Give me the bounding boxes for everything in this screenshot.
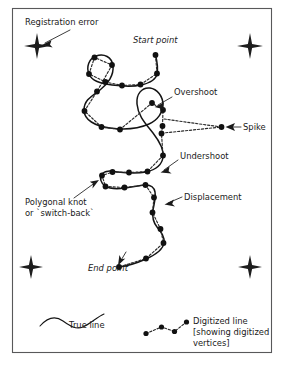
legend-digitized-vertex: [143, 331, 148, 336]
digitized-vertex: [161, 240, 167, 246]
legend-digitized-vertex: [159, 324, 164, 329]
legend-digitized-vertex: [184, 319, 189, 324]
start-point-label: Start point: [133, 35, 178, 45]
overshoot-label: Overshoot: [174, 87, 218, 97]
digitized-vertex: [160, 153, 166, 159]
digitized-vertex: [82, 108, 88, 114]
digitized-vertex: [119, 83, 125, 89]
digitized-vertex: [143, 256, 149, 262]
digitized-vertex: [117, 127, 123, 133]
legend-digitized-line-label-line1: Digitized line: [193, 316, 248, 326]
digitized-vertex: [92, 55, 98, 61]
polygonal-knot-label-line2: or `switch-back`: [25, 208, 94, 218]
digitized-vertex: [149, 100, 155, 106]
digitized-vertex: [86, 71, 92, 77]
digitized-vertex: [159, 131, 165, 137]
undershoot-label: Undershoot: [180, 151, 229, 161]
legend-digitized-line-label-line3: vertices]: [193, 338, 230, 348]
digitized-vertex: [143, 182, 149, 188]
digitized-vertex: [145, 169, 151, 175]
digitized-vertex: [153, 52, 159, 58]
displacement-label: Displacement: [184, 192, 242, 202]
legend-digitized-line-label-line2: [showing digitized: [193, 327, 269, 337]
registration-error-label: Registration error: [25, 17, 99, 27]
digitizing-errors-diagram: Registration error Start point Overshoot…: [0, 0, 284, 369]
digitized-vertex: [103, 184, 109, 190]
digitized-vertex: [103, 79, 109, 85]
legend-digitized-vertex: [172, 329, 177, 334]
digitized-vertex: [94, 89, 100, 95]
digitized-vertex: [126, 170, 132, 176]
spike-vertex: [219, 124, 225, 130]
digitized-vertex: [160, 123, 166, 129]
legend-true-line-label: True line: [68, 320, 105, 330]
digitized-vertex: [99, 173, 105, 179]
digitized-vertex: [158, 226, 164, 232]
spike-label: Spike: [243, 122, 266, 132]
digitized-vertex: [110, 169, 116, 175]
digitized-vertex: [150, 210, 156, 216]
polygonal-knot-label-line1: Polygonal knot: [25, 197, 87, 207]
digitized-vertex: [99, 124, 105, 130]
digitized-vertex: [154, 71, 160, 77]
digitized-vertex: [122, 185, 128, 191]
digitized-vertex: [138, 82, 144, 88]
end-point-label: End point: [88, 263, 129, 273]
diagram-frame: [13, 9, 272, 353]
digitized-vertex: [151, 195, 157, 201]
digitized-vertex: [109, 62, 115, 68]
